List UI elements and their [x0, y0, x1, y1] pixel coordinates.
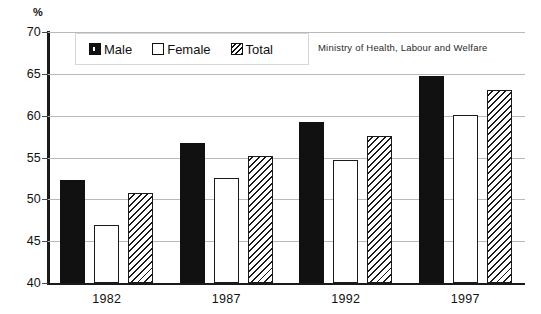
y-axis-tick-label: 70: [11, 25, 41, 39]
bar-total-1997: [487, 90, 512, 283]
y-axis-tick-labels: 40455055606570: [7, 32, 41, 283]
gridline: [47, 74, 525, 75]
plot-area: [47, 32, 525, 283]
legend-entry-female: Female: [152, 42, 210, 57]
y-axis-tick-label: 65: [11, 67, 41, 81]
y-axis-tick-label: 55: [11, 151, 41, 165]
y-axis-tick: [42, 116, 48, 117]
y-axis-tick: [42, 241, 48, 242]
bar-total-1987: [248, 156, 273, 283]
bar-total-1992: [367, 136, 392, 283]
source-attribution: Ministry of Health, Labour and Welfare: [318, 42, 488, 53]
bar-female-1992: [333, 160, 358, 283]
legend-label: Female: [167, 42, 210, 57]
y-axis-tick-label: 45: [11, 234, 41, 248]
bar-female-1982: [94, 225, 119, 283]
y-axis-tick-label: 40: [11, 276, 41, 290]
bar-male-1992: [299, 122, 324, 283]
y-axis-tick: [42, 283, 48, 284]
y-axis-unit-label: %: [33, 6, 43, 18]
x-axis-tick-label: 1982: [92, 292, 121, 306]
y-axis-tick-label: 60: [11, 109, 41, 123]
y-axis-tick-label: 50: [11, 192, 41, 206]
legend-swatch-total-icon: [231, 43, 243, 55]
bar-female-1987: [214, 178, 239, 283]
bar-chart: % 40455055606570 1982198719921997 MaleFe…: [0, 0, 541, 314]
legend-swatch-female-icon: [152, 43, 164, 55]
x-axis-tick-label: 1997: [451, 292, 480, 306]
y-axis-tick: [42, 199, 48, 200]
chart-legend: MaleFemaleTotal: [75, 33, 309, 65]
legend-label: Total: [246, 42, 273, 57]
bar-male-1997: [419, 76, 444, 283]
legend-entry-male: Male: [89, 42, 132, 57]
bar-female-1997: [453, 115, 478, 283]
x-axis-line: [47, 283, 525, 285]
legend-label: Male: [104, 42, 132, 57]
x-axis-tick-label: 1987: [212, 292, 241, 306]
y-axis-tick: [42, 32, 48, 33]
bar-total-1982: [128, 193, 153, 283]
y-axis-tick: [42, 158, 48, 159]
bar-male-1987: [180, 143, 205, 283]
legend-swatch-male-icon: [89, 43, 101, 55]
y-axis-tick: [42, 74, 48, 75]
bar-male-1982: [60, 180, 85, 283]
legend-entry-total: Total: [231, 42, 273, 57]
x-axis-tick-label: 1992: [331, 292, 360, 306]
